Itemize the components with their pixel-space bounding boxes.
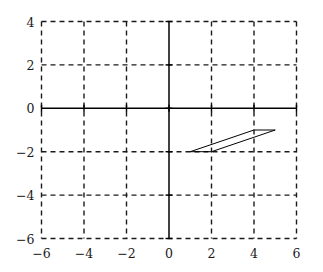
x-axis-tick-label: −2 (117, 246, 135, 261)
data-series-layer (190, 130, 275, 152)
y-axis-tick-label: −4 (16, 188, 34, 203)
y-axis-tick-label: 4 (27, 14, 35, 29)
x-axis-tick-label: −6 (32, 246, 50, 261)
data-shape-parallelogram (190, 130, 275, 152)
x-axis-tick-label: 0 (165, 246, 173, 261)
x-axis-tick-label: 2 (208, 246, 216, 261)
chart-figure: −6−4−2024−6−4−20246 (0, 0, 323, 272)
x-axis-tick-label: −4 (75, 246, 93, 261)
y-axis-tick-label: −2 (16, 144, 34, 159)
y-axis-tick-label: 2 (27, 57, 35, 72)
y-axis-tick-label: −6 (16, 231, 34, 246)
plot-area (0, 0, 323, 272)
x-axis-tick-label: 4 (250, 246, 258, 261)
x-axis-tick-label: 6 (293, 246, 301, 261)
y-axis-tick-label: 0 (27, 101, 35, 116)
